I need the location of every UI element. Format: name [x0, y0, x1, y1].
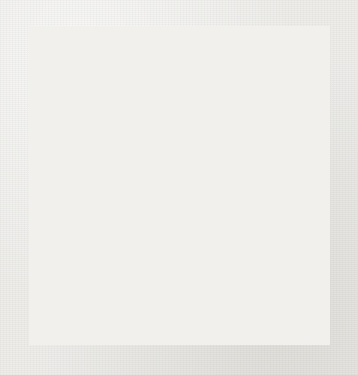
go-board[interactable]	[29, 26, 330, 345]
go-board-grid	[29, 26, 330, 345]
go-board-figure	[0, 0, 358, 375]
